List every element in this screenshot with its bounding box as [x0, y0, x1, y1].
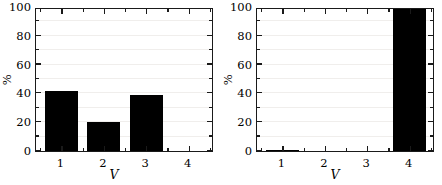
x-tick-major: [104, 146, 105, 151]
x-tick-minor: [125, 9, 126, 12]
y-tick-minor: [209, 20, 212, 21]
y-tick-minor: [430, 107, 433, 108]
x-tick-label: 1: [271, 158, 291, 170]
y-tick-minor: [430, 78, 433, 79]
y-tick-label: 100: [230, 2, 252, 14]
y-tick-major: [428, 35, 433, 36]
y-tick-minor: [257, 78, 260, 79]
y-tick-minor: [209, 78, 212, 79]
x-tick-major: [410, 9, 411, 14]
y-tick-label: 80: [16, 31, 31, 43]
y-tick-major: [36, 92, 41, 93]
x-tick-major: [367, 146, 368, 151]
y-tick-label: 40: [237, 88, 252, 100]
y-axis-title-left: %: [2, 74, 14, 85]
x-tick-minor: [167, 9, 168, 12]
x-tick-label: 4: [178, 158, 198, 170]
x-tick-label: 1: [50, 158, 70, 170]
x-tick-major: [189, 146, 190, 151]
y-tick-minor: [209, 135, 212, 136]
y-tick-minor: [36, 49, 39, 50]
x-tick-minor: [388, 148, 389, 151]
y-tick-minor: [430, 20, 433, 21]
x-tick-minor: [210, 148, 211, 151]
y-tick-major: [207, 35, 212, 36]
x-tick-minor: [388, 9, 389, 12]
chart-panel-left: 020406080100 1234 % V: [0, 0, 221, 185]
plot-area-left: [35, 8, 213, 152]
x-tick-major: [146, 146, 147, 151]
y-tick-major: [207, 121, 212, 122]
y-tick-minor: [430, 135, 433, 136]
x-tick-minor: [346, 148, 347, 151]
x-tick-major: [367, 9, 368, 14]
y-tick-minor: [209, 107, 212, 108]
x-tick-minor: [346, 9, 347, 12]
y-tick-minor: [36, 20, 39, 21]
x-tick-major: [282, 146, 283, 151]
y-tick-major: [257, 63, 262, 64]
x-tick-label: 4: [399, 158, 419, 170]
x-tick-minor: [261, 9, 262, 12]
plot-area-right: [256, 8, 434, 152]
x-tick-minor: [167, 148, 168, 151]
x-tick-minor: [304, 148, 305, 151]
y-tick-major: [428, 63, 433, 64]
y-tick-label: 60: [16, 60, 31, 72]
y-tick-minor: [257, 49, 260, 50]
y-tick-major: [428, 121, 433, 122]
y-tick-major: [207, 63, 212, 64]
x-tick-minor: [83, 9, 84, 12]
y-tick-label: 20: [16, 117, 31, 129]
y-tick-label: 20: [237, 117, 252, 129]
y-tick-minor: [36, 78, 39, 79]
x-tick-major: [410, 146, 411, 151]
bar: [45, 91, 78, 151]
y-tick-label: 100: [9, 2, 31, 14]
x-tick-major: [325, 9, 326, 14]
y-tick-minor: [257, 20, 260, 21]
x-tick-minor: [83, 148, 84, 151]
y-tick-minor: [209, 49, 212, 50]
x-tick-major: [189, 9, 190, 14]
gridline: [36, 20, 212, 21]
y-tick-major: [257, 35, 262, 36]
x-tick-minor: [431, 148, 432, 151]
x-tick-minor: [125, 148, 126, 151]
gridline: [36, 64, 212, 65]
x-tick-minor: [40, 9, 41, 12]
chart-panel-right: 020406080100 1234 % V: [221, 0, 442, 185]
y-tick-minor: [430, 49, 433, 50]
y-tick-major: [257, 121, 262, 122]
y-tick-minor: [36, 135, 39, 136]
gridline: [36, 35, 212, 36]
x-tick-major: [104, 9, 105, 14]
y-tick-major: [257, 92, 262, 93]
y-tick-label: 60: [237, 60, 252, 72]
x-tick-major: [61, 9, 62, 14]
x-tick-minor: [40, 148, 41, 151]
figure-canvas: 020406080100 1234 % V 020406080100 1234 …: [0, 0, 442, 185]
y-tick-minor: [257, 107, 260, 108]
x-tick-major: [282, 9, 283, 14]
x-tick-minor: [261, 148, 262, 151]
y-tick-minor: [257, 135, 260, 136]
x-tick-major: [325, 146, 326, 151]
y-tick-label: 80: [237, 31, 252, 43]
y-tick-major: [36, 63, 41, 64]
gridline: [36, 78, 212, 79]
y-tick-major: [36, 121, 41, 122]
y-tick-major: [36, 35, 41, 36]
x-tick-label: 3: [356, 158, 376, 170]
bar: [393, 8, 426, 151]
x-axis-title-left: V: [104, 169, 124, 182]
x-tick-minor: [304, 9, 305, 12]
y-tick-major: [428, 92, 433, 93]
gridline: [36, 49, 212, 50]
y-tick-label: 0: [245, 146, 252, 158]
y-tick-major: [207, 92, 212, 93]
x-axis-title-right: V: [325, 169, 345, 182]
y-tick-minor: [36, 107, 39, 108]
x-tick-minor: [431, 9, 432, 12]
x-tick-minor: [210, 9, 211, 12]
